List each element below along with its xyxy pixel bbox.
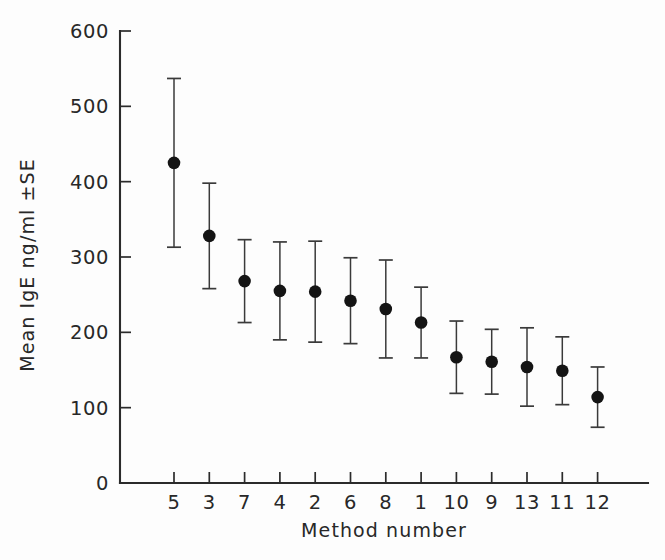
x-tick-label: 5 [167,491,180,514]
x-tick-label: 10 [443,491,469,514]
y-tick-label: 0 [96,472,109,495]
data-point-marker [415,316,428,329]
data-point-marker [380,303,393,316]
x-tick-label: 7 [238,491,251,514]
data-point-marker [344,294,357,307]
x-tick-label: 6 [344,491,357,514]
data-point-marker [485,355,498,368]
y-tick-label: 200 [70,321,109,344]
data-point-marker [556,364,569,377]
chart-page: 0100200300400500600 53742681109131112 Me… [0,0,665,560]
x-tick-label: 12 [585,491,611,514]
y-tick-label: 500 [70,95,109,118]
y-tick-label: 600 [70,20,109,43]
data-point-marker [168,157,181,170]
data-point-marker [309,285,322,298]
y-tick-label: 300 [70,246,109,269]
data-point-marker [591,391,604,404]
x-tick-label: 8 [379,491,392,514]
data-point-marker [203,230,216,243]
x-tick-label: 1 [415,491,428,514]
x-tick-label: 2 [309,491,322,514]
data-point-marker [238,275,251,288]
x-tick-label: 13 [514,491,540,514]
x-tick-label: 9 [485,491,498,514]
y-tick-label: 100 [70,397,109,420]
x-axis-title: Method number [301,519,467,541]
y-axis-title: Mean IgE ng/ml ±SE [16,158,38,372]
x-tick-label: 11 [549,491,575,514]
y-tick-label: 400 [70,171,109,194]
data-point-marker [521,361,534,374]
data-point-marker [274,285,287,298]
data-point-marker [450,351,463,364]
error-bar-chart: 0100200300400500600 53742681109131112 Me… [0,0,665,560]
x-tick-label: 4 [273,491,286,514]
x-tick-label: 3 [203,491,216,514]
